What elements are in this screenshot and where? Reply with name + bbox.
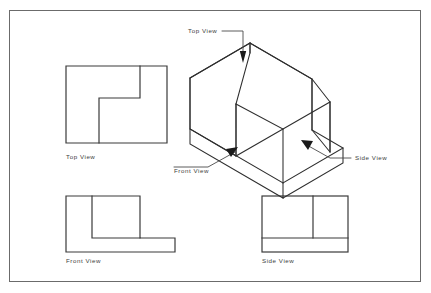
iso-left-wall-inner-face [236, 104, 283, 156]
iso-right-wall-back-top-edge [312, 79, 330, 102]
drawing-sheet: Top View Front View Side View [0, 0, 431, 293]
iso-right-wall-bottom-notch-edge [312, 130, 330, 152]
iso-top-view-label: Top View [188, 27, 217, 34]
front-view-callout-group: Front View [174, 147, 238, 174]
front-view-internal-lines [92, 196, 140, 238]
iso-slab-top-face [190, 43, 343, 183]
front-view-group [66, 196, 175, 252]
side-view-callout-group: Side View [301, 140, 387, 161]
front-view-label: Front View [66, 257, 101, 264]
technical-drawing-canvas: Top View Front View Side View [0, 0, 431, 293]
side-view-outline [262, 196, 348, 252]
top-view-callout-group: Top View [188, 27, 246, 63]
isometric-view-group [190, 43, 343, 198]
iso-left-wall-outer-face [190, 78, 236, 156]
iso-right-wall-inner-front-edge [236, 104, 283, 183]
top-view-group [66, 66, 167, 143]
side-view-label: Side View [262, 257, 294, 264]
top-view-step-lines [99, 66, 140, 143]
iso-slab-front-right-face [283, 148, 343, 198]
top-view-label: Top View [66, 153, 95, 160]
iso-side-view-label: Side View [355, 154, 387, 161]
front-view-outline [66, 196, 175, 252]
iso-front-view-label: Front View [174, 167, 209, 174]
top-view-callout-arrowhead [240, 51, 246, 63]
sheet-border [10, 11, 421, 282]
iso-left-wall-top-edge [190, 43, 250, 78]
side-view-callout-leader [305, 144, 351, 158]
side-view-callout-arrowhead [301, 140, 313, 150]
top-view-outline [66, 66, 167, 143]
side-view-group [262, 196, 348, 252]
